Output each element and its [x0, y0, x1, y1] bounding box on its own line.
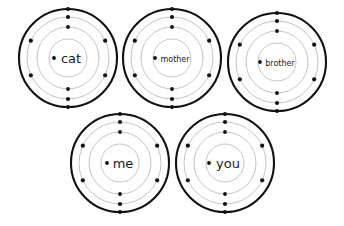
electron-dot [170, 97, 174, 101]
electron-dot [170, 87, 174, 91]
nucleus-dot [207, 161, 211, 165]
electron-dot [66, 87, 70, 91]
electron-dot [155, 144, 159, 148]
electron-dot [207, 73, 211, 77]
electron-dot [223, 130, 227, 134]
electron-dot [170, 7, 174, 11]
electron-dot [238, 77, 242, 81]
atom-label: me [113, 156, 134, 171]
atom-label: brother [265, 59, 295, 68]
atom-label: cat [61, 51, 81, 66]
electron-dot [118, 130, 122, 134]
electron-dot [103, 73, 107, 77]
nucleus-dot [153, 56, 157, 60]
electron-dot [260, 178, 264, 182]
electron-dot [170, 15, 174, 19]
nucleus-dot [105, 161, 109, 165]
electron-dot [186, 178, 190, 182]
electron-dot [223, 192, 227, 196]
electron-dot [223, 112, 227, 116]
electron-dot [118, 210, 122, 214]
electron-dot [66, 7, 70, 11]
electron-dot [155, 178, 159, 182]
atom-label: mother [160, 55, 190, 64]
electron-dot [207, 39, 211, 43]
electron-dot [29, 73, 33, 77]
atom-diagram-canvas: catmotherbrothermeyou [0, 0, 344, 226]
atom-you: you [172, 110, 278, 216]
atom-mother: mother [119, 5, 225, 111]
electron-dot [66, 105, 70, 109]
electron-dot [275, 19, 279, 23]
nucleus-dot [258, 60, 262, 64]
electron-dot [66, 97, 70, 101]
electron-dot [103, 39, 107, 43]
electron-dot [29, 39, 33, 43]
electron-dot [275, 29, 279, 33]
electron-dot [118, 202, 122, 206]
electron-dot [312, 43, 316, 47]
electron-dot [275, 101, 279, 105]
electron-dot [118, 120, 122, 124]
electron-dot [275, 91, 279, 95]
atom-cat: cat [15, 5, 121, 111]
electron-dot [260, 144, 264, 148]
atom-label: you [216, 156, 240, 171]
electron-dot [170, 25, 174, 29]
electron-dot [66, 25, 70, 29]
electron-dot [133, 73, 137, 77]
electron-dot [223, 120, 227, 124]
electron-dot [238, 43, 242, 47]
atom-brother: brother [224, 9, 330, 115]
electron-dot [186, 144, 190, 148]
electron-dot [312, 77, 316, 81]
electron-dot [133, 39, 137, 43]
electron-dot [118, 112, 122, 116]
electron-dot [66, 15, 70, 19]
electron-dot [118, 192, 122, 196]
electron-dot [275, 11, 279, 15]
electron-dot [223, 202, 227, 206]
nucleus-dot [52, 56, 56, 60]
electron-dot [81, 178, 85, 182]
atom-me: me [67, 110, 173, 216]
electron-dot [170, 105, 174, 109]
electron-dot [81, 144, 85, 148]
electron-dot [223, 210, 227, 214]
